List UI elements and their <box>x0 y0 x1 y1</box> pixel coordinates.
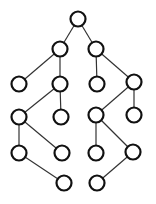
tree-node <box>127 75 142 90</box>
tree-node <box>71 12 86 27</box>
tree-edges <box>19 19 134 183</box>
tree-node <box>12 77 27 92</box>
tree-node <box>12 146 27 161</box>
tree-node <box>127 108 142 123</box>
tree-node <box>90 176 105 191</box>
tree-node <box>54 110 69 125</box>
tree-node <box>89 108 104 123</box>
tree-node <box>53 77 68 92</box>
tree-node <box>55 146 70 161</box>
tree-diagram <box>0 0 156 204</box>
tree-node <box>126 145 141 160</box>
tree-node <box>53 42 68 57</box>
tree-node <box>90 77 105 92</box>
tree-node <box>89 42 104 57</box>
tree-nodes <box>12 12 142 191</box>
tree-node <box>57 176 72 191</box>
tree-node <box>89 146 104 161</box>
tree-node <box>12 110 27 125</box>
